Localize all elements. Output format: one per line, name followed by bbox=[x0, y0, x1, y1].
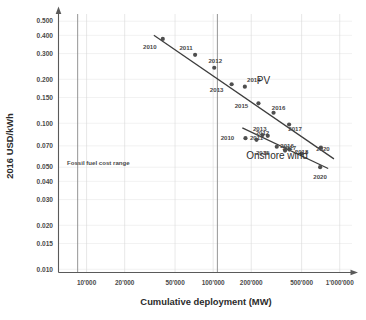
data-point-pv-2012 bbox=[212, 66, 216, 70]
x-axis-tick-labels: 10'00020'00050'000100'000200'000500'0001… bbox=[77, 279, 354, 286]
data-point-pv-2015 bbox=[256, 101, 260, 105]
series-label-pv: PV bbox=[257, 75, 271, 86]
point-label-pv-2011: 2011 bbox=[179, 44, 193, 51]
y-axis-tick-labels: 0.5000.4000.3000.2000.1500.1000.0700.050… bbox=[36, 17, 53, 272]
y-tick-0.500: 0.500 bbox=[36, 17, 53, 24]
x-axis-arrowhead bbox=[351, 270, 359, 276]
horizontal-gridlines bbox=[59, 21, 353, 269]
x-tick-20'000: 20'000 bbox=[115, 279, 135, 286]
fossil-fuel-cost-range: Fossil fuel cost range bbox=[67, 159, 130, 166]
y-tick-0.400: 0.400 bbox=[36, 32, 53, 39]
x-tick-100'000: 100'000 bbox=[202, 279, 225, 286]
y-axis-arrowhead bbox=[56, 7, 62, 15]
trend-line-pv bbox=[154, 35, 334, 159]
point-label-pv-2017: 2017 bbox=[288, 125, 302, 132]
x-tick-500'000: 500'000 bbox=[290, 279, 313, 286]
y-tick-0.150: 0.150 bbox=[36, 94, 53, 101]
cost-vs-deployment-learning-curve-chart: 2010201120122013201420152016201720202010… bbox=[0, 0, 366, 320]
data-point-pv-2014 bbox=[243, 85, 247, 89]
data-point-pv-2013 bbox=[230, 82, 234, 86]
data-point-onshore-wind-2015 bbox=[275, 145, 279, 149]
y-tick-0.050: 0.050 bbox=[36, 163, 53, 170]
point-label-pv-2015: 2015 bbox=[235, 102, 249, 109]
data-point-pv-2010 bbox=[161, 37, 165, 41]
point-label-onshore-wind-2010: 2010 bbox=[221, 134, 235, 141]
data-point-pv-2011 bbox=[193, 53, 197, 57]
point-label-onshore-wind-2020: 2020 bbox=[313, 173, 327, 180]
series-label-onshore-wind: Onshore wind bbox=[246, 150, 308, 161]
point-label-pv-2012: 2012 bbox=[208, 57, 222, 64]
point-label-onshore-wind-2013: 2013 bbox=[253, 125, 267, 132]
point-label-pv-2010: 2010 bbox=[143, 43, 157, 50]
data-point-onshore-wind-2020 bbox=[318, 165, 322, 169]
x-tick-50'000: 50'000 bbox=[165, 279, 185, 286]
fossil-fuel-band-lines bbox=[78, 14, 218, 273]
vertical-gridlines bbox=[87, 14, 340, 273]
y-tick-0.200: 0.200 bbox=[36, 76, 53, 83]
y-tick-0.010: 0.010 bbox=[36, 266, 53, 273]
point-label-pv-2016: 2016 bbox=[272, 104, 286, 111]
point-label-pv-2013: 2013 bbox=[210, 86, 224, 93]
x-tick-10'000: 10'000 bbox=[77, 279, 97, 286]
x-tick-200'000: 200'000 bbox=[240, 279, 263, 286]
x-axis-title: Cumulative deployment (MW) bbox=[140, 296, 271, 307]
y-tick-0.100: 0.100 bbox=[36, 120, 53, 127]
y-tick-0.030: 0.030 bbox=[36, 196, 53, 203]
y-tick-0.015: 0.015 bbox=[36, 240, 53, 247]
y-tick-0.040: 0.040 bbox=[36, 178, 53, 185]
x-tick-1'000'000: 1'000'000 bbox=[326, 279, 354, 286]
y-tick-0.070: 0.070 bbox=[36, 142, 53, 149]
point-label-pv-2020: 2020 bbox=[316, 145, 330, 152]
y-axis-title: 2016 USD/kWh bbox=[4, 113, 15, 179]
data-point-onshore-wind-2010 bbox=[243, 136, 247, 140]
y-tick-0.020: 0.020 bbox=[36, 222, 53, 229]
chart-annotations: Fossil fuel cost rangePVOnshore wind bbox=[67, 75, 308, 165]
data-point-pv-2016 bbox=[271, 111, 275, 115]
y-tick-0.300: 0.300 bbox=[36, 50, 53, 57]
chart-container: 2010201120122013201420152016201720202010… bbox=[0, 0, 366, 320]
